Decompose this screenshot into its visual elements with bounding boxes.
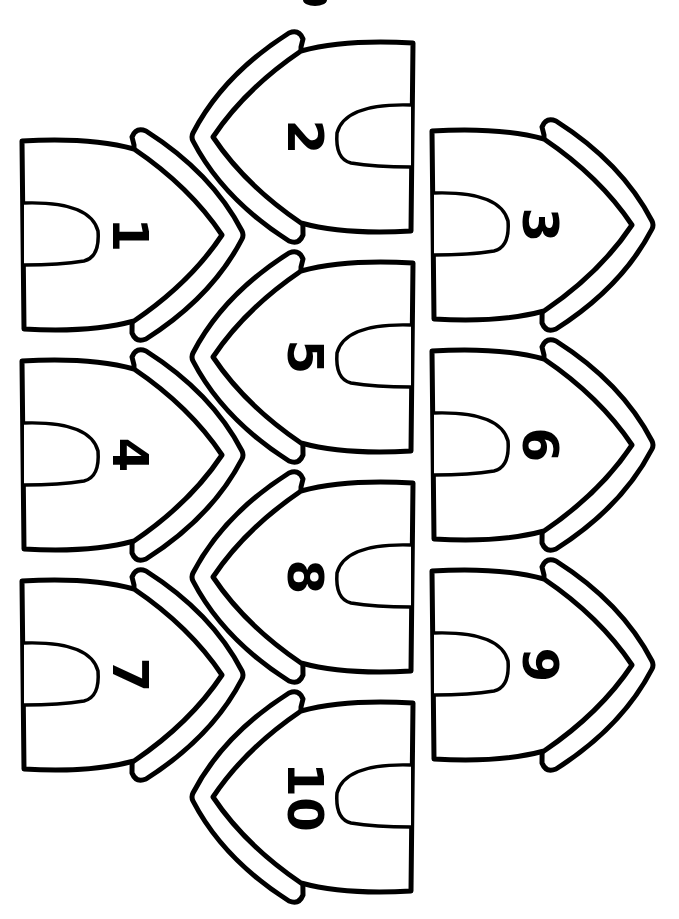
house-number-label: 8 (276, 560, 334, 595)
house-number-label: 3 (511, 208, 569, 243)
house-worksheet: 12345678910 (0, 0, 679, 919)
house-number-label: 9 (511, 648, 569, 683)
house-number-label: 6 (511, 428, 569, 463)
houses-group: 12345678910 (22, 32, 653, 902)
house-9: 9 (432, 560, 653, 770)
house-6: 6 (432, 340, 653, 550)
house-number-label: 2 (276, 120, 334, 155)
house-10: 10 (192, 692, 413, 902)
house-number-label: 5 (276, 340, 334, 375)
house-number-label: 4 (101, 438, 159, 473)
house-number-label: 7 (101, 658, 159, 693)
house-number-label: 10 (276, 762, 334, 832)
cut-off-mark (303, 0, 327, 6)
house-number-label: 1 (101, 218, 159, 253)
house-3: 3 (432, 120, 653, 330)
